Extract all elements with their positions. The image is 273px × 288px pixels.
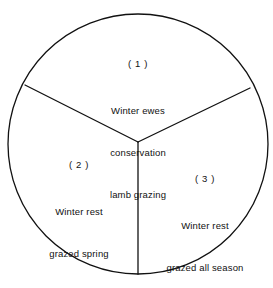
sector-3-label: ( 3 ) Winter rest grazed all season xyxy=(145,144,265,288)
sector-2-number: ( 2 ) xyxy=(19,158,139,172)
sector-3-number: ( 3 ) xyxy=(145,172,265,186)
sector-3-line-2: grazed all season xyxy=(145,261,265,275)
sector-2-label: ( 2 ) Winter rest grazed spring summer r… xyxy=(19,130,139,288)
grazing-rotation-diagram: ( 1 ) Winter ewes conservation lamb graz… xyxy=(0,0,273,288)
sector-1-number: ( 1 ) xyxy=(78,57,198,71)
sector-1-line-1: Winter ewes xyxy=(78,104,198,118)
sector-2-line-2: grazed spring xyxy=(19,247,139,261)
sector-3-line-1: Winter rest xyxy=(145,219,265,233)
sector-2-line-1: Winter rest xyxy=(19,205,139,219)
